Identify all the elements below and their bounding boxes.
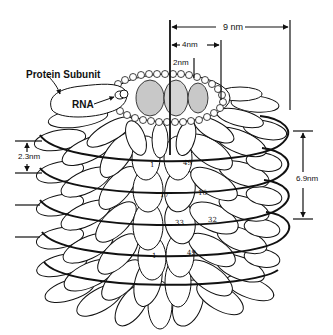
subunit-height-label: 2.3nm [18, 153, 40, 161]
helix-pitch-label: 6.9nm [296, 175, 318, 183]
subunit-number: 1 [152, 253, 156, 260]
subunit-number: 32 [208, 217, 217, 224]
virus-helix-diagram: 9 nm 4nm 2nm Protein Subunit RNA 2.3nm 6… [0, 0, 333, 335]
mid-radius-label: 4nm [182, 41, 198, 49]
helix-drawing [0, 0, 333, 335]
outer-diameter-label: 9 nm [221, 23, 245, 32]
subunit-number: 33 [175, 220, 184, 227]
subunit-number: 17 [160, 192, 169, 199]
subunit-number: 16 [198, 190, 207, 197]
inner-radius-label: 2nm [173, 59, 189, 67]
rna-label: RNA [72, 100, 94, 110]
subunit-number: 49 [187, 250, 196, 257]
protein-subunit-label: Protein Subunit [26, 70, 100, 80]
subunit-number: 49 [183, 160, 192, 167]
subunit-number: 1 [150, 162, 154, 169]
